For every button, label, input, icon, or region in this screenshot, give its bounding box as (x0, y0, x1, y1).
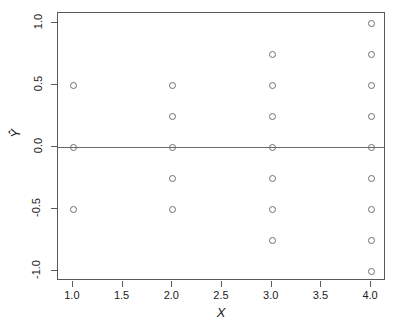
data-point (269, 113, 276, 120)
x-axis-tick-label: 3.5 (300, 289, 340, 301)
y-axis-tick-label: -1.0 (0, 264, 46, 275)
data-point (269, 237, 276, 244)
x-axis-tick (370, 281, 371, 287)
x-axis-tick-label: 1.5 (102, 289, 142, 301)
y-axis-tick (51, 208, 57, 209)
data-point (368, 206, 375, 213)
plot-frame (57, 12, 385, 280)
x-axis-tick (271, 281, 272, 287)
y-axis-tick-label: 1.0 (0, 16, 46, 27)
scatter-plot-figure: 1.01.52.02.53.03.54.0 1.00.50.0-0.5-1.0 … (0, 0, 405, 328)
y-axis-tick (51, 270, 57, 271)
data-point (368, 82, 375, 89)
data-point (269, 175, 276, 182)
x-axis-tick (320, 281, 321, 287)
x-axis-tick-label: 3.0 (251, 289, 291, 301)
data-point (368, 20, 375, 27)
data-point (70, 206, 77, 213)
data-point (368, 175, 375, 182)
x-axis-tick-label: 4.0 (350, 289, 390, 301)
plot-data-area (58, 13, 384, 279)
data-point (368, 144, 375, 151)
x-axis-tick (122, 281, 123, 287)
data-point (368, 51, 375, 58)
x-axis-tick-label: 1.0 (52, 289, 92, 301)
data-point (269, 206, 276, 213)
data-point (169, 175, 176, 182)
data-point (368, 113, 375, 120)
y-axis-label: Ŷ (8, 121, 23, 147)
x-axis-tick-label: 2.0 (151, 289, 191, 301)
data-point (169, 113, 176, 120)
x-axis-tick (171, 281, 172, 287)
data-point (269, 144, 276, 151)
x-axis-tick (72, 281, 73, 287)
data-point (169, 82, 176, 89)
y-axis-tick (51, 22, 57, 23)
data-point (70, 144, 77, 151)
y-axis-tick (51, 84, 57, 85)
reference-line-zero (58, 147, 384, 148)
data-point (368, 268, 375, 275)
data-point (70, 82, 77, 89)
data-point (269, 82, 276, 89)
x-axis-tick (221, 281, 222, 287)
y-axis-tick (51, 146, 57, 147)
data-point (269, 51, 276, 58)
y-axis-tick-label: -0.5 (0, 202, 46, 213)
data-point (368, 237, 375, 244)
y-axis-tick-label: 0.5 (0, 78, 46, 89)
data-point (169, 144, 176, 151)
x-axis-label: X (57, 305, 385, 320)
data-point (169, 206, 176, 213)
x-axis-tick-label: 2.5 (201, 289, 241, 301)
